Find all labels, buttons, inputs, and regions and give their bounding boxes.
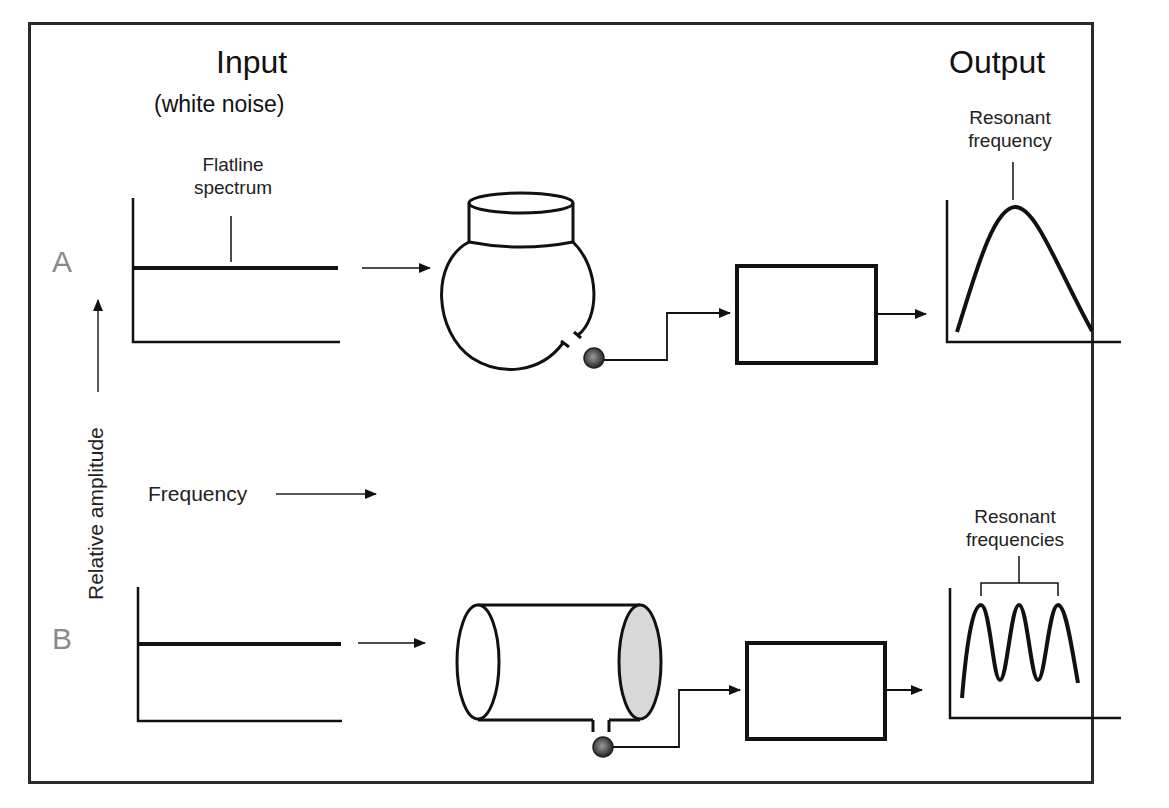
computer-b-box [747,643,885,739]
wire-mic-to-computer-a [604,313,730,360]
output-spectrum-a [947,162,1121,342]
tube-resonator-icon [457,605,661,732]
input-spectrum-a [133,198,340,342]
flask-resonator-icon [442,193,594,369]
microphone-a-icon [584,348,604,368]
diagram-graphics [0,0,1169,808]
computer-a-box [737,266,876,363]
microphone-b-icon [593,737,613,757]
output-spectrum-b [950,556,1121,718]
input-spectrum-b [138,587,342,721]
